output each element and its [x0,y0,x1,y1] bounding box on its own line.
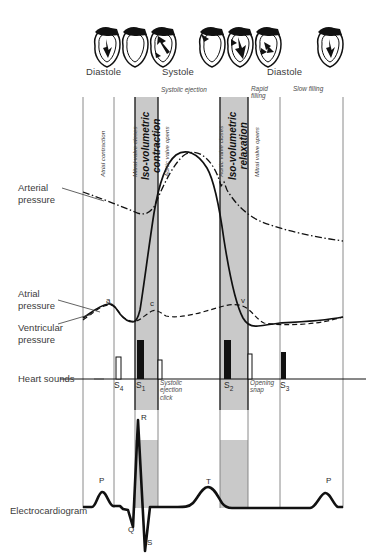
heart-sound-label-s3: S3 [280,380,289,392]
heart-sound-label-s4: S4 [114,380,123,392]
ecg-letter-p1: P [99,476,104,485]
heart-sound-label-s1: S1 [136,380,145,392]
ecg-letter-r: R [141,413,147,422]
s2-sub: 2 [230,385,234,392]
s3-sub: 3 [286,385,290,392]
ecg-letter-q: Q [128,525,134,534]
ecg-letter-t: T [206,477,211,486]
ecg-letter-p2: P [326,476,331,485]
s4-sub: 4 [120,385,124,392]
note-systolic-ejection-click: Systolic ejection click [160,379,186,401]
note-opening-snap: Opening snap [250,379,278,394]
atrial-wave-letter-c: c [150,299,154,308]
atrial-wave-letter-a: a [106,296,110,305]
leader-lines [0,0,366,557]
heart-sound-label-s2: S2 [224,380,233,392]
atrial-wave-letter-v: v [241,296,245,305]
cardiac-cycle-figure: Diastole Systole Diastole Systolic eject… [0,0,366,557]
ecg-letter-s: S [147,538,152,547]
s1-sub: 1 [142,385,146,392]
